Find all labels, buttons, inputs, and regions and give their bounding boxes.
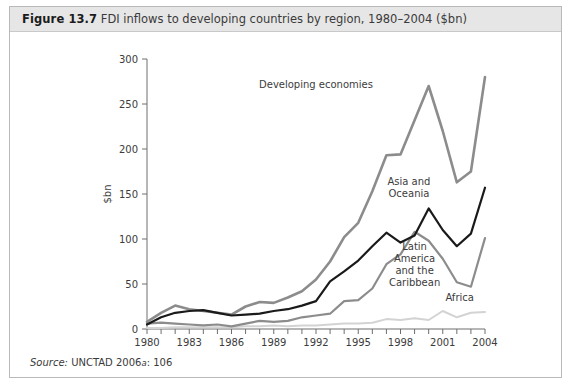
series-label: Caribbean <box>389 277 440 288</box>
source-page: : 106 <box>147 357 173 368</box>
x-tick-label: 1992 <box>303 337 328 348</box>
x-tick-label: 1995 <box>346 337 371 348</box>
x-tick-label: 1998 <box>388 337 413 348</box>
y-tick-label: 250 <box>119 99 138 110</box>
x-tick-label: 1983 <box>177 337 202 348</box>
series-label: Developing economies <box>259 79 373 90</box>
source-label: Source: <box>30 357 68 368</box>
x-tick-label: 2001 <box>430 337 455 348</box>
series-label: Latin <box>402 241 427 252</box>
x-tick-label: 1986 <box>219 337 244 348</box>
figure-container: Figure 13.7 FDI inflows to developing co… <box>9 6 562 378</box>
y-axis-title: $bn <box>102 184 113 203</box>
series-label: Africa <box>445 292 474 303</box>
y-tick-label: 150 <box>119 189 138 200</box>
source-text: UNCTAD 2006 <box>71 357 141 368</box>
y-tick-label: 0 <box>132 324 138 335</box>
y-tick-label: 50 <box>125 279 138 290</box>
x-tick-label: 2004 <box>472 337 497 348</box>
y-tick-label: 100 <box>119 234 138 245</box>
series-label: Asia and <box>387 176 430 187</box>
series-label: and the <box>395 265 433 276</box>
figure-number: Figure 13.7 <box>22 12 97 26</box>
chart-plot-area: 050100150200250300$bn1980198319861989199… <box>10 32 561 352</box>
line-chart: 050100150200250300$bn1980198319861989199… <box>10 32 561 352</box>
x-tick-label: 1980 <box>134 337 159 348</box>
x-tick-label: 1989 <box>261 337 286 348</box>
y-tick-label: 200 <box>119 144 138 155</box>
source-note: Source: UNCTAD 2006a: 106 <box>30 357 172 368</box>
y-tick-label: 300 <box>119 54 138 65</box>
series-label: Oceania <box>388 188 429 199</box>
figure-caption-text: FDI inflows to developing countries by r… <box>101 12 467 26</box>
figure-caption: Figure 13.7 FDI inflows to developing co… <box>22 12 467 26</box>
series-label: America <box>394 253 435 264</box>
